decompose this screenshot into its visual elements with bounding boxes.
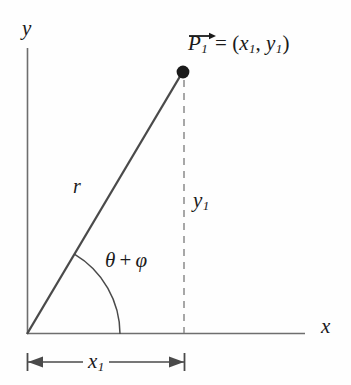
coord-comma: , — [256, 31, 267, 55]
p1-subscript: 1 — [201, 41, 208, 56]
p1-vector-symbol: P1 — [188, 33, 210, 55]
y1-measure-label: y1 — [193, 190, 209, 212]
polar-coordinate-diagram: y x r θ + φ y1 x1 P1 = (x1, y1) — [0, 0, 351, 385]
plus-symbol: + — [120, 248, 132, 272]
x1-subscript: 1 — [98, 359, 105, 374]
diagram-canvas — [0, 0, 351, 385]
y1-subscript: 1 — [203, 198, 210, 213]
coord-y-base: y — [266, 31, 275, 55]
equals-sign: = — [215, 31, 227, 55]
point-label-p1-coordinates: P1 = (x1, y1) — [188, 33, 289, 55]
y1-base: y — [193, 188, 202, 212]
coord-x-base: x — [239, 31, 248, 55]
x-axis-label: x — [321, 316, 330, 337]
angle-label-theta-plus-phi: θ + φ — [105, 250, 147, 271]
ray-r-line — [27, 73, 182, 334]
x1-base: x — [88, 349, 97, 373]
y-axis-label: y — [22, 18, 31, 39]
point-marker-p1 — [177, 66, 190, 79]
x1-measure-label: x1 — [83, 351, 109, 373]
theta-symbol: θ — [105, 248, 115, 272]
ray-length-label-r: r — [73, 176, 81, 196]
bracket-left-arrowhead — [28, 357, 43, 368]
p1-base: P — [188, 31, 201, 55]
phi-symbol: φ — [136, 248, 148, 272]
bracket-right-arrowhead — [169, 357, 184, 368]
paren-close: ) — [282, 31, 289, 55]
